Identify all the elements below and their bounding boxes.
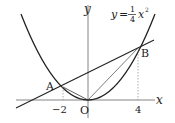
eq-numerator: 1 [130,5,135,14]
eq-denominator: 4 [130,15,135,24]
curve-equation-label: y = 1 4 x 2 [110,5,149,24]
eq-exponent: 2 [145,6,149,13]
point-a-label: A [45,80,55,93]
tick-label-neg2: −2 [52,104,67,115]
eq-sign: = [119,8,128,21]
eq-lhs: y [110,8,118,21]
point-b-label: B [141,47,149,60]
origin-label: O [80,104,89,117]
x-axis-label: x [156,93,163,107]
eq-variable: x [138,8,145,21]
segment-ob [88,48,138,100]
tick-label-4: 4 [135,104,141,115]
y-axis-label: y [83,2,91,16]
parabola-diagram: y x O A B −2 4 y = 1 4 x 2 [0,0,175,123]
segment-oa [63,87,88,100]
